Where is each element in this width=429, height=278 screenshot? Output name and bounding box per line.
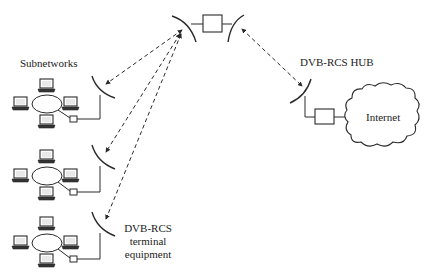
hub-label: DVB-RCS HUB xyxy=(300,56,374,69)
terminal-label-line1: DVB-RCS xyxy=(124,222,172,235)
terminal-modem-box xyxy=(70,189,77,195)
laptop-icon xyxy=(62,169,79,182)
terminal-modem-box xyxy=(70,256,77,262)
satellite-links xyxy=(106,29,302,219)
internet-label: Internet xyxy=(366,111,400,124)
terminal-label-line2: terminal xyxy=(124,235,172,248)
laptop-icon xyxy=(12,97,29,110)
laptop-icon xyxy=(12,236,29,249)
terminal-modem-box xyxy=(70,116,77,122)
laptop-icon xyxy=(38,217,55,230)
dvb-rcs-network-diagram xyxy=(0,0,429,278)
hub-dish-icon xyxy=(290,79,311,103)
lan-ring xyxy=(32,95,62,113)
subnetworks-label: Subnetworks xyxy=(20,57,77,70)
laptop-icon xyxy=(62,97,79,110)
link-satellite-terminal-3 xyxy=(106,34,181,219)
terminal-dish-icon xyxy=(92,145,115,169)
terminal-dish-icon xyxy=(92,212,115,236)
subnetwork-2 xyxy=(12,145,115,200)
lan-ring xyxy=(32,234,62,252)
link-satellite-hub xyxy=(242,29,302,86)
satellite-right-antenna xyxy=(228,15,244,42)
laptop-icon xyxy=(38,187,55,200)
laptop-icon xyxy=(38,115,55,128)
subnetwork-1 xyxy=(12,76,115,128)
link-satellite-terminal-1 xyxy=(106,30,182,84)
link-satellite-terminal-2 xyxy=(106,34,180,152)
subnetwork-3 xyxy=(12,212,115,267)
laptop-icon xyxy=(38,150,55,163)
hub-router-box xyxy=(315,109,334,124)
satellite xyxy=(172,15,244,42)
terminal-equipment-label: DVB-RCS terminal equipment xyxy=(124,222,172,261)
laptop-icon xyxy=(38,79,55,92)
laptop-icon xyxy=(12,169,29,182)
laptop-icon xyxy=(38,254,55,267)
laptop-icon xyxy=(62,236,79,249)
satellite-transponder-box xyxy=(203,15,222,32)
lan-ring xyxy=(32,167,62,185)
terminal-label-line3: equipment xyxy=(124,248,172,261)
terminal-dish-icon xyxy=(92,76,115,98)
satellite-left-antenna xyxy=(172,16,196,42)
